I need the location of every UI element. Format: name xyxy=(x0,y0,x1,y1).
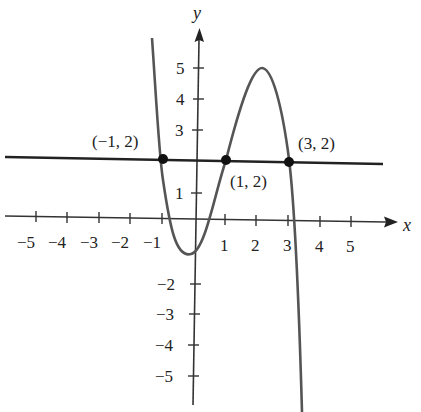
y-axis-label: y xyxy=(191,3,201,23)
x-tick-label: 3 xyxy=(283,236,292,255)
y-axis-arrow-icon xyxy=(195,28,205,42)
point-1-2 xyxy=(221,155,231,165)
y-tick-label: −2 xyxy=(157,275,175,294)
point-label-3-2: (3, 2) xyxy=(298,134,335,153)
x-tick-label: −4 xyxy=(48,233,67,252)
point-3-2 xyxy=(284,157,294,167)
x-tick-label: 4 xyxy=(315,237,324,256)
x-tick-label: −2 xyxy=(111,233,129,252)
x-tick-label: 5 xyxy=(346,237,355,256)
y-tick-label: −4 xyxy=(155,336,174,355)
point-neg1-2 xyxy=(158,154,168,164)
graph-figure: x −5 −4 −3 −2 −1 1 2 3 4 5 y 5 4 3 1 −2 … xyxy=(0,0,421,412)
x-tick-label: −1 xyxy=(143,233,161,252)
x-tick-label: −3 xyxy=(80,233,98,252)
y-tick-label: 5 xyxy=(176,59,185,78)
y-tick-label: −3 xyxy=(156,305,174,324)
point-label-1-2: (1, 2) xyxy=(230,172,267,191)
cubic-curve xyxy=(152,38,302,412)
x-axis: x −5 −4 −3 −2 −1 1 2 3 4 5 xyxy=(5,211,411,256)
x-axis-label: x xyxy=(402,215,411,235)
x-axis-arrow-icon xyxy=(384,217,398,228)
y-tick-label: −5 xyxy=(155,367,173,386)
x-tick-label: 2 xyxy=(251,236,260,255)
horizontal-line-y2 xyxy=(5,157,383,164)
y-tick-label: 3 xyxy=(175,121,184,140)
cubic-graph-svg: x −5 −4 −3 −2 −1 1 2 3 4 5 y 5 4 3 1 −2 … xyxy=(0,0,421,412)
point-label-neg1-2: (−1, 2) xyxy=(92,132,138,151)
y-axis: y 5 4 3 1 −2 −3 −4 −5 xyxy=(155,3,204,405)
y-tick-label: 4 xyxy=(176,90,185,109)
x-tick-label: 1 xyxy=(220,236,229,255)
y-tick-label: 1 xyxy=(175,184,184,203)
x-tick-label: −5 xyxy=(17,233,35,252)
